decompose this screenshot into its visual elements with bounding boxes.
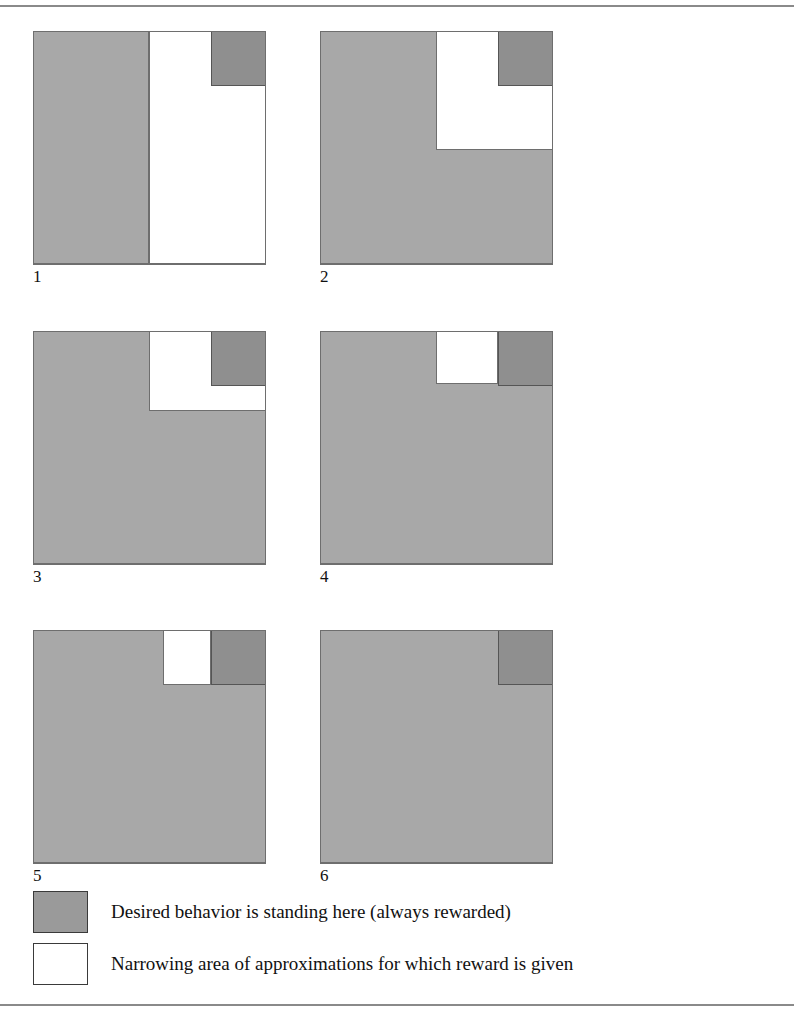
panel-2	[320, 31, 553, 265]
top-horizontal-rule	[0, 5, 794, 7]
approximation-area	[436, 331, 498, 384]
desired-behavior-area	[498, 31, 553, 86]
approximation-area	[163, 630, 211, 685]
panel-label-4: 4	[320, 567, 329, 587]
desired-behavior-area	[498, 630, 553, 685]
desired-behavior-area	[211, 31, 266, 86]
legend-row-2: Narrowing area of approximations for whi…	[33, 938, 733, 990]
legend-label-2: Narrowing area of approximations for whi…	[111, 952, 573, 976]
panel-label-3: 3	[33, 567, 42, 587]
bottom-horizontal-rule	[0, 1004, 794, 1006]
desired-behavior-area	[498, 331, 553, 386]
panel-5	[33, 630, 266, 864]
desired-behavior-area	[211, 331, 266, 386]
legend-label-1: Desired behavior is standing here (alway…	[111, 900, 511, 924]
panel-6	[320, 630, 553, 864]
desired-behavior-area	[211, 630, 266, 685]
legend: Desired behavior is standing here (alway…	[33, 886, 733, 990]
panel-1	[33, 31, 266, 265]
panel-4	[320, 331, 553, 565]
unrewarded-area	[33, 31, 149, 264]
panel-label-2: 2	[320, 267, 329, 287]
legend-row-1: Desired behavior is standing here (alway…	[33, 886, 733, 938]
panel-label-5: 5	[33, 866, 42, 886]
panel-label-1: 1	[33, 267, 42, 287]
legend-swatch-dark	[33, 891, 88, 933]
panel-label-6: 6	[320, 866, 329, 886]
legend-swatch-white	[33, 943, 88, 985]
panel-3	[33, 331, 266, 565]
